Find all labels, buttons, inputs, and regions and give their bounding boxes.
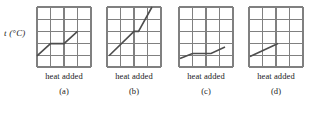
plot-d (248, 6, 304, 68)
panel-c: heat added (c) (178, 6, 234, 96)
x-axis-label-a: heat added (28, 71, 100, 81)
panel-b: heat added (b) (106, 6, 162, 96)
panel-d: heat added (d) (248, 6, 304, 96)
panel-a: heat added (a) (36, 6, 92, 96)
plot-c (178, 6, 234, 68)
panel-caption-c: (c) (178, 86, 234, 96)
x-axis-label-c: heat added (170, 71, 242, 81)
curve-c (180, 47, 225, 59)
grid-lines-d (249, 7, 303, 67)
grid-lines-c (179, 7, 233, 67)
temperature-vs-heat-figure: t (°C) heat added (0, 0, 317, 118)
x-axis-label-b: heat added (98, 71, 170, 81)
panel-caption-a: (a) (36, 86, 92, 96)
panel-caption-b: (b) (106, 86, 162, 96)
grid-lines-b (107, 7, 161, 67)
x-axis-label-d: heat added (240, 71, 312, 81)
panel-caption-d: (d) (248, 86, 304, 96)
grid-lines-a (37, 7, 91, 67)
curve-d (250, 44, 278, 57)
plot-a (36, 6, 92, 68)
panel-row: heat added (a) (0, 0, 317, 118)
plot-b (106, 6, 162, 68)
